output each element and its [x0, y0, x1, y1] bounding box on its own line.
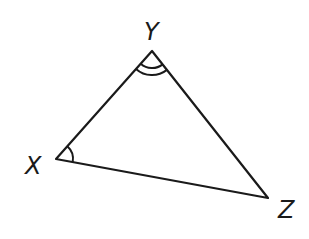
- vertex-label-x: X: [23, 152, 42, 180]
- vertex-label-z: Z: [277, 196, 295, 224]
- triangle-diagram: Y X Z: [0, 0, 309, 239]
- angle-mark-x: [67, 146, 73, 162]
- vertex-label-y: Y: [144, 18, 161, 46]
